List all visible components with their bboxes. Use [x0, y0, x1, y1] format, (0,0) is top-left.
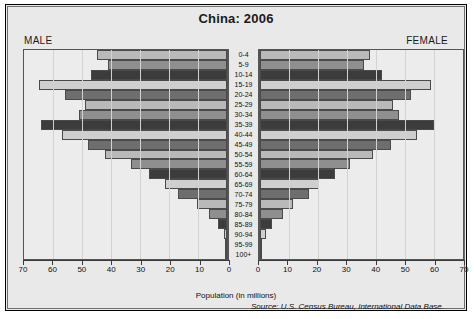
bar-row [24, 209, 227, 219]
bar-row [24, 80, 227, 90]
bar-row [24, 90, 227, 100]
male-bar [97, 50, 228, 60]
axis-tick-label: 50 [77, 265, 86, 274]
female-bar [260, 90, 411, 100]
bar-row [24, 159, 227, 169]
age-group-label: 10-14 [229, 69, 258, 79]
age-group-label: 40-44 [229, 129, 258, 139]
gridline [318, 50, 319, 259]
female-bar-rows [260, 50, 463, 259]
male-bar [131, 159, 227, 169]
age-group-label: 75-79 [229, 200, 258, 210]
age-group-label: 35-39 [229, 119, 258, 129]
bar-row [260, 169, 463, 179]
male-bar [225, 239, 227, 249]
male-bar [85, 100, 227, 110]
gridline [53, 50, 54, 259]
source-note: Source: U.S. Census Bureau, Internationa… [251, 302, 444, 311]
female-bar [260, 60, 364, 70]
age-group-label: 25-29 [229, 99, 258, 109]
bar-row [24, 189, 227, 199]
age-group-label: 50-54 [229, 149, 258, 159]
bar-row [24, 249, 227, 259]
gridline [82, 50, 83, 259]
axis-tick-label: 10 [195, 265, 204, 274]
age-group-label: 45-49 [229, 139, 258, 149]
bar-row [24, 130, 227, 140]
x-axis-label: Population (in millions) [6, 291, 466, 300]
age-group-label: 100+ [229, 250, 258, 260]
axis-tick-label: 30 [136, 265, 145, 274]
male-bar [178, 189, 227, 199]
female-bar [260, 100, 393, 110]
male-bar [209, 209, 227, 219]
bar-row [260, 60, 463, 70]
axis-tick-label: 60 [48, 265, 57, 274]
male-side-label: MALE [24, 35, 52, 46]
gridline [289, 50, 290, 259]
bar-row [260, 80, 463, 90]
bar-row [260, 219, 463, 229]
age-group-label: 80-84 [229, 210, 258, 220]
bar-row [260, 140, 463, 150]
axis-tick-label: 20 [166, 265, 175, 274]
male-bar [79, 110, 227, 120]
bar-row [24, 199, 227, 209]
female-bar [260, 70, 382, 80]
bar-row [24, 169, 227, 179]
female-bar [260, 140, 391, 150]
bar-row [24, 50, 227, 60]
age-group-label: 65-69 [229, 180, 258, 190]
axis-tick-label: 30 [342, 265, 351, 274]
axis-tick-label: 0 [256, 265, 260, 274]
male-bar [218, 219, 227, 229]
female-axis-line [258, 260, 464, 261]
age-group-label: 60-64 [229, 170, 258, 180]
bar-row [260, 50, 463, 60]
bar-row [260, 150, 463, 160]
female-side-label: FEMALE [406, 35, 448, 46]
age-group-label: 95-99 [229, 240, 258, 250]
bar-row [260, 199, 463, 209]
bar-row [24, 120, 227, 130]
bar-row [260, 239, 463, 249]
axis-tick-label: 40 [107, 265, 116, 274]
bar-row [260, 110, 463, 120]
female-bar [260, 249, 262, 259]
male-panel [23, 49, 228, 260]
population-pyramid-screenshot: China: 2006 MALE FEMALE 0-45-910-1415-19… [0, 0, 474, 319]
axis-tick-label: 10 [283, 265, 292, 274]
male-bar [108, 60, 227, 70]
bar-row [24, 150, 227, 160]
axis-tick-label: 40 [371, 265, 380, 274]
female-bar [260, 239, 262, 249]
bar-row [260, 159, 463, 169]
male-bar [88, 140, 227, 150]
bar-row [260, 229, 463, 239]
bar-row [260, 179, 463, 189]
male-bar [41, 120, 227, 130]
gridline [198, 50, 199, 259]
gridline [169, 50, 170, 259]
age-group-label: 15-19 [229, 79, 258, 89]
female-bar [260, 159, 350, 169]
bar-row [260, 100, 463, 110]
gridline [376, 50, 377, 259]
female-x-axis: 010203040506070 [258, 260, 464, 274]
bar-row [24, 140, 227, 150]
male-bar [224, 229, 227, 239]
female-bar [260, 110, 399, 120]
bar-row [24, 239, 227, 249]
female-bar [260, 189, 309, 199]
age-group-label: 30-34 [229, 109, 258, 119]
male-x-axis: 706050403020100 [23, 260, 229, 274]
gridline [140, 50, 141, 259]
bar-row [260, 90, 463, 100]
bar-row [260, 189, 463, 199]
bar-row [24, 60, 227, 70]
bar-row [24, 70, 227, 80]
female-bar [260, 150, 373, 160]
bar-row [24, 100, 227, 110]
age-group-label: 55-59 [229, 160, 258, 170]
female-bar [260, 209, 283, 219]
